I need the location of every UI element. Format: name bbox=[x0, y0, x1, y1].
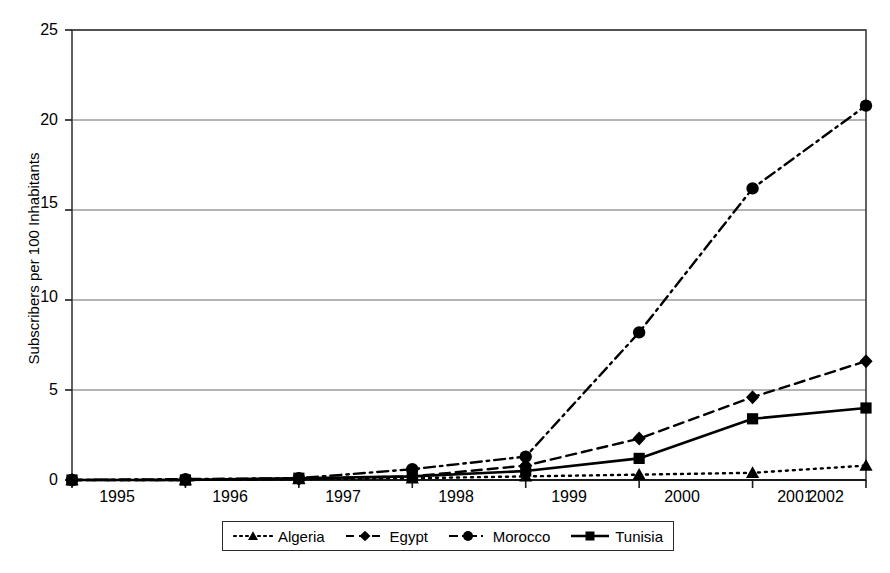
data-point bbox=[66, 474, 77, 485]
data-point bbox=[859, 354, 872, 368]
data-point bbox=[747, 413, 758, 424]
legend-item-tunisia: Tunisia bbox=[570, 529, 663, 544]
data-point bbox=[407, 471, 418, 482]
legend-swatch-algeria bbox=[233, 529, 273, 543]
plot-frame bbox=[72, 30, 866, 480]
line-chart: Subscribers per 100 Inhabitants 25 20 15… bbox=[0, 0, 890, 573]
data-point bbox=[859, 459, 872, 471]
chart-legend: Algeria Egypt Morocco Tunisia bbox=[222, 521, 674, 551]
data-point bbox=[860, 99, 872, 111]
x-tick-label-1998: 1998 bbox=[416, 488, 496, 506]
data-point bbox=[746, 390, 759, 404]
y-tick-label-0: 0 bbox=[18, 472, 58, 488]
legend-label-morocco: Morocco bbox=[493, 529, 551, 544]
legend-item-algeria: Algeria bbox=[233, 529, 325, 544]
x-tick-label-1999: 1999 bbox=[529, 488, 609, 506]
data-point bbox=[520, 465, 531, 476]
data-point bbox=[633, 326, 645, 338]
y-axis-title: Subscribers per 100 Inhabitants bbox=[25, 94, 42, 424]
legend-label-egypt: Egypt bbox=[390, 529, 428, 544]
y-axis-ticks bbox=[65, 30, 72, 480]
data-point bbox=[860, 402, 871, 413]
x-tick-label-1997: 1997 bbox=[303, 488, 383, 506]
y-tick-label-15: 15 bbox=[18, 195, 58, 211]
data-point bbox=[746, 182, 758, 194]
data-point bbox=[520, 450, 532, 462]
x-tick-label-2002: 2002 bbox=[786, 488, 866, 506]
legend-swatch-egypt bbox=[345, 529, 385, 543]
data-point bbox=[293, 473, 304, 484]
x-tick-label-2000: 2000 bbox=[642, 488, 722, 506]
legend-label-algeria: Algeria bbox=[278, 529, 325, 544]
legend-item-egypt: Egypt bbox=[345, 529, 428, 544]
y-tick-label-5: 5 bbox=[18, 382, 58, 398]
gridlines bbox=[72, 30, 866, 390]
legend-swatch-morocco bbox=[448, 529, 488, 543]
data-point bbox=[634, 453, 645, 464]
x-tick-label-1995: 1995 bbox=[77, 488, 157, 506]
x-tick-label-1996: 1996 bbox=[190, 488, 270, 506]
y-tick-label-20: 20 bbox=[18, 112, 58, 128]
data-series-layer bbox=[65, 99, 872, 487]
y-tick-label-10: 10 bbox=[18, 289, 58, 305]
data-point bbox=[180, 474, 191, 485]
y-tick-label-25: 25 bbox=[18, 22, 58, 38]
series-morocco bbox=[66, 99, 872, 486]
data-point bbox=[633, 432, 646, 446]
legend-swatch-tunisia bbox=[570, 529, 610, 543]
legend-item-morocco: Morocco bbox=[448, 529, 551, 544]
legend-label-tunisia: Tunisia bbox=[615, 529, 663, 544]
